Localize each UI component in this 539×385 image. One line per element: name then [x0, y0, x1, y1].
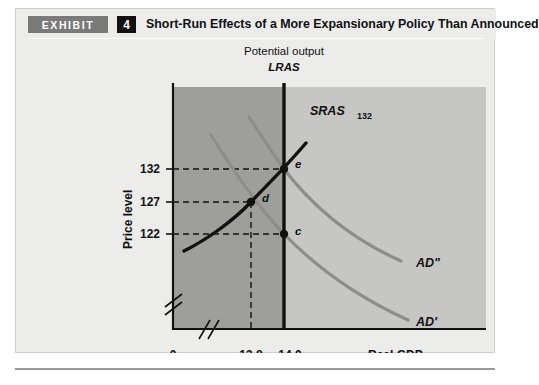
xtick-label-13point8: 13.8 [239, 348, 263, 353]
exhibit-title: Short-Run Effects of a More Expansionary… [146, 16, 539, 33]
x-axis-title: Real GDP [368, 348, 423, 353]
point-e-label: e [295, 158, 302, 170]
ad-prime-label: AD' [415, 315, 438, 329]
y-axis-title: Price level [121, 190, 135, 249]
aggregate-supply-demand-plot: e d c 132 127 122 Price level 0 13.8 14.… [16, 39, 496, 353]
sras-curve-label: SRAS [310, 104, 345, 118]
exhibit-header: EXHIBIT 4 Short-Run Effects of a More Ex… [16, 9, 496, 39]
plot-left-shaded-region [173, 87, 284, 329]
point-e-marker [280, 165, 288, 173]
plot-right-shaded-region [284, 87, 486, 329]
exhibit-label: EXHIBIT [28, 16, 108, 33]
chart-area: e d c 132 127 122 Price level 0 13.8 14.… [16, 39, 496, 353]
figure-bottom-rule [15, 368, 495, 370]
ad-double-prime-label: AD" [415, 256, 441, 270]
point-d-label: d [262, 192, 270, 204]
sras-curve-subscript: 132 [357, 111, 372, 121]
ytick-label-122: 122 [140, 227, 160, 241]
xtick-label-14point0: 14.0 [278, 348, 302, 353]
point-c-marker [280, 230, 288, 238]
ytick-label-132: 132 [140, 162, 160, 176]
ytick-label-127: 127 [140, 195, 160, 209]
potential-output-label: Potential output [244, 45, 325, 57]
exhibit-figure: EXHIBIT 4 Short-Run Effects of a More Ex… [15, 8, 495, 353]
point-d-marker [247, 198, 255, 206]
xtick-label-0: 0 [170, 348, 177, 353]
point-c-label: c [295, 225, 302, 237]
exhibit-number-badge: 4 [117, 16, 136, 33]
lras-label: LRAS [268, 61, 300, 73]
